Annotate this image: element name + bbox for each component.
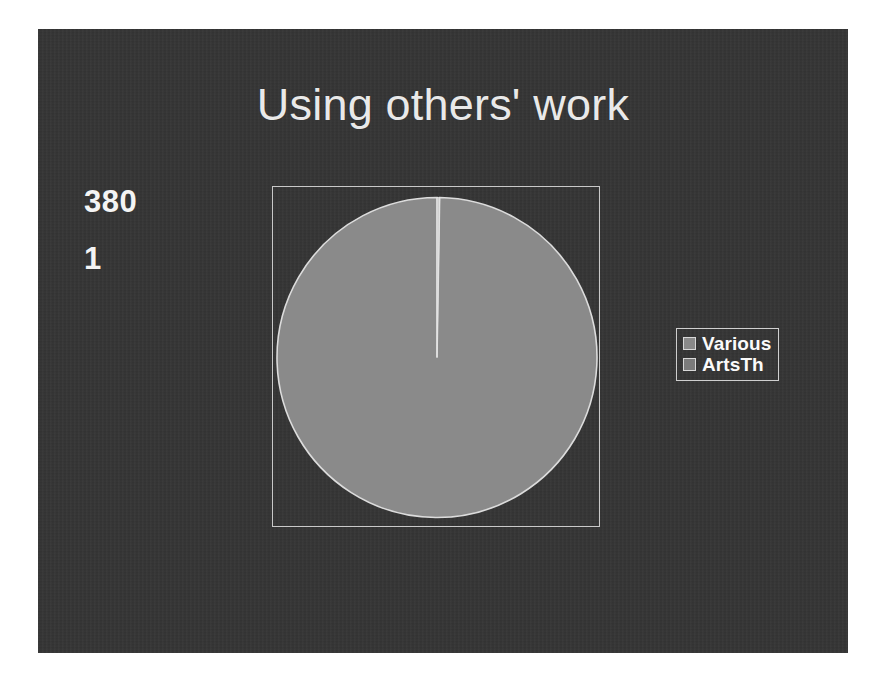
data-value: 1 bbox=[84, 243, 234, 274]
pie-chart-svg bbox=[236, 185, 638, 530]
chart-plot-area bbox=[272, 186, 600, 527]
legend-swatch-icon bbox=[683, 337, 696, 350]
data-value-list: 380 1 bbox=[84, 186, 234, 300]
slide-canvas: Using others' work 380 1 Various ArtsTh bbox=[38, 29, 848, 653]
data-value: 380 bbox=[84, 186, 234, 217]
chart-legend[interactable]: Various ArtsTh bbox=[676, 328, 779, 381]
pie-chart bbox=[273, 187, 601, 528]
legend-item-artsth[interactable]: ArtsTh bbox=[683, 354, 771, 375]
legend-swatch-icon bbox=[683, 358, 696, 371]
page-title: Using others' work bbox=[38, 81, 848, 128]
legend-item-various[interactable]: Various bbox=[683, 333, 771, 354]
legend-item-label: Various bbox=[702, 334, 771, 353]
legend-item-label: ArtsTh bbox=[702, 355, 764, 374]
